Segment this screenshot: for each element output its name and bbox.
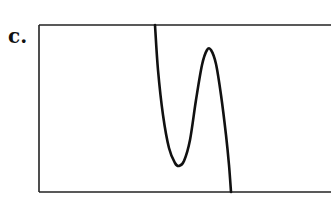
function-curve — [155, 25, 231, 192]
graph — [0, 0, 331, 198]
frame — [39, 25, 331, 192]
